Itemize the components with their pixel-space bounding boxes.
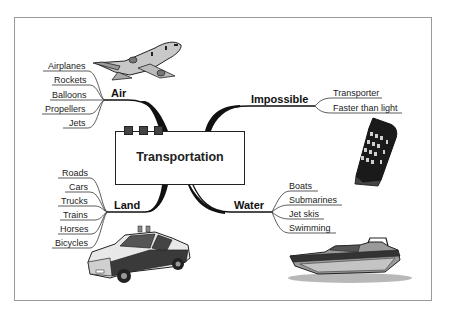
air-item-rockets[interactable]: Rockets xyxy=(54,75,87,85)
branch-water[interactable]: Water xyxy=(234,199,264,211)
square-marker-icon xyxy=(139,126,148,135)
square-marker-icon xyxy=(154,126,163,135)
land-item-trucks[interactable]: Trucks xyxy=(61,196,88,206)
square-marker-icon xyxy=(124,126,133,135)
central-topic-box[interactable]: Transportation xyxy=(115,131,245,185)
air-item-balloons[interactable]: Balloons xyxy=(52,90,87,100)
police-car-icon xyxy=(88,226,190,283)
phone-box-icon xyxy=(355,118,397,186)
impossible-item-faster-than-light[interactable]: Faster than light xyxy=(333,103,398,113)
air-item-propellers[interactable]: Propellers xyxy=(45,104,86,114)
land-item-trains[interactable]: Trains xyxy=(63,210,88,220)
branch-air[interactable]: Air xyxy=(111,87,126,99)
land-item-cars[interactable]: Cars xyxy=(69,182,88,192)
branch-impossible[interactable]: Impossible xyxy=(251,93,308,105)
water-item-swimming[interactable]: Swimming xyxy=(289,223,331,233)
land-item-roads[interactable]: Roads xyxy=(62,168,88,178)
airplane-icon xyxy=(93,42,181,80)
water-item-boats[interactable]: Boats xyxy=(289,181,312,191)
speedboat-icon xyxy=(288,238,412,283)
impossible-item-transporter[interactable]: Transporter xyxy=(333,88,379,98)
air-item-airplanes[interactable]: Airplanes xyxy=(48,61,86,71)
water-item-jet-skis[interactable]: Jet skis xyxy=(289,209,319,219)
water-item-submarines[interactable]: Submarines xyxy=(289,195,337,205)
land-item-horses[interactable]: Horses xyxy=(60,224,89,234)
land-item-bicycles[interactable]: Bicycles xyxy=(55,238,88,248)
air-item-jets[interactable]: Jets xyxy=(69,118,86,128)
branch-land[interactable]: Land xyxy=(114,199,140,211)
central-topic-title: Transportation xyxy=(116,150,244,164)
